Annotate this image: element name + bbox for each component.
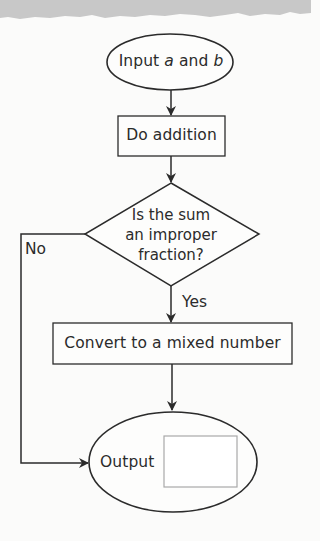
output-answer-box[interactable]: [164, 436, 237, 487]
convert-node-label: Convert to a mixed number: [53, 336, 292, 352]
start-label-mid: and: [174, 52, 214, 70]
decision-line-3: fraction?: [111, 245, 231, 265]
output-node-label: Output: [100, 455, 160, 471]
no-edge-label: No: [25, 242, 46, 258]
decision-line-2: an improper: [111, 225, 231, 245]
decision-line-1: Is the sum: [111, 205, 231, 225]
start-node-label: Input a and b: [114, 54, 228, 70]
decision-node-label: Is the sum an improper fraction?: [111, 205, 231, 265]
variable-b: b: [213, 52, 223, 70]
variable-a: a: [164, 52, 174, 70]
add-node-label: Do addition: [118, 128, 225, 144]
start-label-prefix: Input: [119, 52, 165, 70]
yes-edge-label: Yes: [182, 295, 207, 311]
